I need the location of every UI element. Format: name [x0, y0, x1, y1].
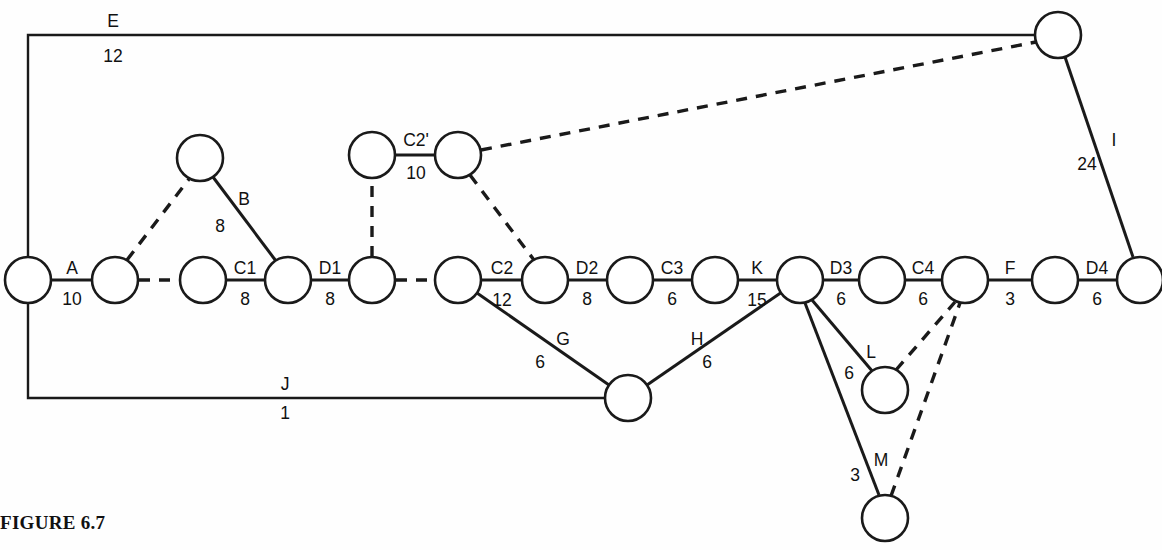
label-activity-C3: C3	[661, 258, 683, 278]
label-activity-D1: D1	[319, 258, 341, 278]
event-node-n1[interactable]	[5, 257, 51, 303]
duration-H: 6	[702, 352, 712, 372]
event-node-n14[interactable]	[1117, 257, 1162, 303]
duration-D1: 8	[325, 289, 335, 309]
event-node-n6[interactable]	[435, 257, 481, 303]
label-activity-C4: C4	[912, 258, 935, 278]
label-activity-B: B	[238, 189, 250, 209]
event-node-nTop[interactable]	[1035, 12, 1081, 58]
duration-C2p: 10	[406, 163, 426, 183]
duration-C3: 6	[667, 289, 677, 309]
label-activity-I: I	[1112, 130, 1117, 150]
duration-C4: 6	[918, 289, 928, 309]
event-node-n9[interactable]	[692, 257, 738, 303]
duration-B: 8	[215, 216, 225, 236]
event-node-n13[interactable]	[1032, 257, 1078, 303]
label-activity-H: H	[691, 329, 704, 349]
event-node-n12[interactable]	[942, 257, 988, 303]
edge-group-ortho	[28, 35, 1035, 398]
dummy-n2-nB	[127, 179, 189, 260]
label-activity-J: J	[281, 374, 290, 394]
duration-I: 24	[1077, 154, 1097, 174]
label-activity-D4: D4	[1086, 258, 1109, 278]
edge-I-line	[1065, 57, 1133, 257]
label-activity-E: E	[107, 11, 119, 31]
duration-C1: 8	[240, 289, 250, 309]
event-node-nL[interactable]	[862, 367, 908, 413]
duration-E: 12	[103, 46, 122, 66]
event-node-n4[interactable]	[265, 257, 311, 303]
event-node-n2[interactable]	[92, 257, 138, 303]
duration-F: 3	[1005, 289, 1015, 309]
duration-L: 6	[844, 363, 854, 383]
dummy-nL-n12	[896, 302, 955, 370]
event-node-n8[interactable]	[607, 257, 653, 303]
event-node-n10[interactable]	[777, 257, 823, 303]
dummy-nC2b-nTop	[481, 42, 1036, 150]
label-activity-D2: D2	[576, 258, 598, 278]
event-node-nB[interactable]	[177, 135, 223, 181]
edge-L-line	[812, 300, 873, 372]
label-activity-M: M	[874, 450, 889, 470]
event-node-nM[interactable]	[862, 495, 908, 541]
label-activity-A: A	[66, 258, 78, 278]
event-node-nGH[interactable]	[605, 375, 651, 421]
duration-D2: 8	[582, 289, 592, 309]
duration-A: 10	[62, 289, 82, 309]
event-node-n7[interactable]	[522, 257, 568, 303]
label-activity-K: K	[751, 258, 763, 278]
duration-M: 3	[850, 465, 860, 485]
label-activity-F: F	[1005, 258, 1016, 278]
figure-caption: FIGURE 6.7	[0, 512, 105, 534]
label-activity-C1: C1	[234, 258, 256, 278]
label-activity-L: L	[866, 342, 876, 362]
activity-label-group: E C2' B A C1 D1 C2 D2 C3 K D3 C4 F D4 I …	[66, 11, 1116, 470]
event-node-n3[interactable]	[180, 257, 226, 303]
event-node-n11[interactable]	[859, 257, 905, 303]
event-node-nC2b[interactable]	[435, 132, 481, 178]
duration-G: 6	[535, 352, 545, 372]
label-activity-C2: C2	[491, 258, 513, 278]
duration-D4: 6	[1092, 289, 1102, 309]
label-activity-C2p: C2'	[403, 130, 429, 150]
duration-C2: 12	[492, 290, 511, 310]
label-activity-G: G	[556, 329, 570, 349]
network-diagram: E C2' B A C1 D1 C2 D2 C3 K D3 C4 F D4 I …	[0, 0, 1162, 550]
duration-J: 1	[280, 403, 290, 423]
duration-D3: 6	[836, 289, 846, 309]
figure-canvas: E C2' B A C1 D1 C2 D2 C3 K D3 C4 F D4 I …	[0, 0, 1162, 550]
dummy-nC2b-n7	[470, 175, 534, 260]
duration-K: 15	[747, 290, 766, 310]
event-node-n5[interactable]	[349, 257, 395, 303]
event-node-nC2a[interactable]	[349, 132, 395, 178]
label-activity-D3: D3	[830, 258, 852, 278]
